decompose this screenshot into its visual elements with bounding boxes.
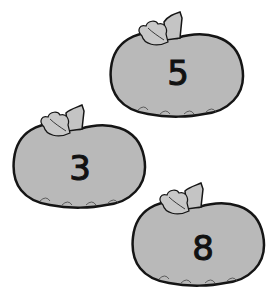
pumpkin-counting-cards: 5 3 8 [0, 0, 279, 297]
pumpkin-number: 5 [158, 56, 198, 90]
pumpkin-number: 3 [60, 151, 100, 185]
pumpkin-card-8: 8 [131, 179, 267, 289]
pumpkin-number: 8 [183, 231, 223, 265]
pumpkin-card-3: 3 [12, 101, 148, 211]
